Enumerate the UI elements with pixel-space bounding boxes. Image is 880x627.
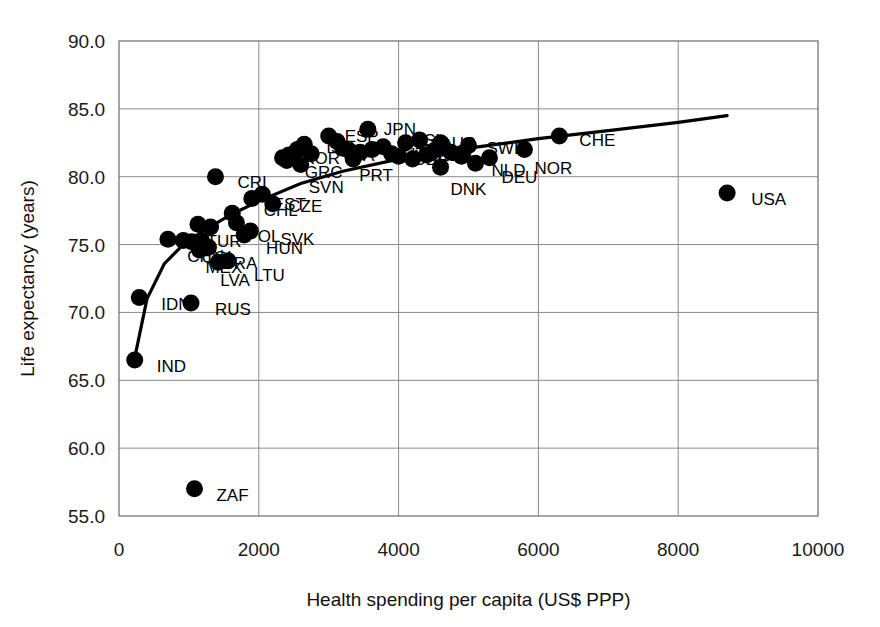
data-point bbox=[189, 216, 206, 233]
y-tick-label: 80.0 bbox=[68, 167, 105, 188]
data-point-label: IND bbox=[157, 357, 186, 376]
y-tick-label: 65.0 bbox=[68, 370, 105, 391]
data-point bbox=[274, 149, 291, 166]
data-point-label: ITA bbox=[349, 146, 375, 165]
data-point bbox=[551, 128, 568, 145]
x-tick-label: 10000 bbox=[792, 539, 845, 560]
y-tick-label: 55.0 bbox=[68, 506, 105, 527]
data-point bbox=[207, 168, 224, 185]
data-point-label: PRT bbox=[359, 166, 393, 185]
data-point-label: IDN bbox=[161, 295, 190, 314]
data-point-label: USA bbox=[751, 190, 787, 209]
data-point-label: SWE bbox=[487, 139, 526, 158]
y-tick-label: 75.0 bbox=[68, 235, 105, 256]
x-tick-label: 4000 bbox=[377, 539, 419, 560]
data-point-label: ZAF bbox=[216, 486, 248, 505]
data-point-label: LTU bbox=[254, 266, 285, 285]
data-point-label: RUS bbox=[215, 300, 251, 319]
data-point-label: SVK bbox=[280, 230, 315, 249]
data-point-label: TUR bbox=[207, 232, 242, 251]
scatter-chart: 0200040006000800010000 55.060.065.070.07… bbox=[0, 0, 880, 627]
data-point bbox=[159, 231, 176, 248]
chart-background bbox=[0, 0, 880, 627]
data-point bbox=[186, 480, 203, 497]
data-point-label: CRI bbox=[237, 173, 266, 192]
data-point-label: LVA bbox=[220, 271, 250, 290]
data-point-label: JPN bbox=[384, 120, 416, 139]
data-point bbox=[131, 289, 148, 306]
chart-canvas: 0200040006000800010000 55.060.065.070.07… bbox=[0, 0, 880, 627]
data-point-label: ESP bbox=[345, 127, 379, 146]
data-point-label: DEU bbox=[501, 168, 537, 187]
y-tick-label: 60.0 bbox=[68, 438, 105, 459]
data-point-label: DNK bbox=[451, 180, 488, 199]
x-tick-label: 0 bbox=[114, 539, 125, 560]
y-axis-title: Life expectancy (years) bbox=[17, 180, 38, 376]
data-point-label: EST bbox=[273, 195, 306, 214]
data-point-label: IRL bbox=[451, 143, 477, 162]
x-tick-label: 8000 bbox=[657, 539, 699, 560]
x-tick-label: 6000 bbox=[517, 539, 559, 560]
data-point-label: SVN bbox=[309, 178, 344, 197]
data-point-label: CHE bbox=[579, 131, 615, 150]
x-tick-label: 2000 bbox=[238, 539, 280, 560]
y-tick-label: 90.0 bbox=[68, 31, 105, 52]
data-point bbox=[719, 185, 736, 202]
data-point bbox=[224, 205, 241, 222]
y-tick-label: 70.0 bbox=[68, 302, 105, 323]
data-point-label: NOR bbox=[534, 159, 572, 178]
x-axis-title: Health spending per capita (US$ PPP) bbox=[306, 589, 630, 610]
y-tick-label: 85.0 bbox=[68, 99, 105, 120]
data-point bbox=[126, 351, 143, 368]
